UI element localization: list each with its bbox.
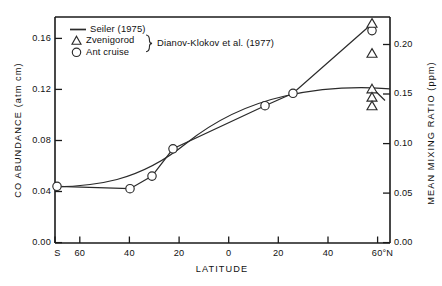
data-point-circle [126,185,134,193]
x-ticklabel-0: S [54,248,60,258]
left-axis-ticks [55,38,62,242]
legend-brace [146,35,152,52]
x-ticklabel-5: 20 [273,248,284,258]
data-point-circle [53,182,61,190]
x-axis-ticklabels: S 60 40 20 0 20 40 60°N [54,248,393,258]
x-axis-title: LATITUDE [196,264,249,274]
right-ticklabel-4: 0.20 [394,39,413,49]
x-ticklabel-2: 40 [124,248,135,258]
right-ticklabel-3: 0.15 [394,88,413,98]
legend-label-ant-cruise: Ant cruise [86,46,129,57]
legend-label-seiler: Seiler (1975) [90,23,146,34]
legend-label-zvenigorod: Zvenigorod [86,34,134,45]
x-axis-ticks [55,237,378,244]
data-point-circle [261,102,269,110]
x-ticklabel-6: 40 [323,248,334,258]
y2-axis-title: MEAN MIXING RATIO (ppm) [426,61,436,205]
data-point-triangle [367,19,377,28]
x-ticklabel-4: 0 [226,248,231,258]
right-ticklabel-0: 0.00 [394,237,413,247]
right-axis-ticklabels: 0.20 0.15 0.10 0.05 0.00 [394,39,413,247]
legend-circle-swatch [72,48,80,56]
right-ticklabel-2: 0.10 [394,138,413,148]
y-axis-title: CO ABUNDANCE (atm cm) [13,62,23,197]
x-ticklabel-3: 20 [174,248,185,258]
left-ticklabel-3: 0.04 [32,186,51,196]
data-point-triangle [367,49,377,58]
legend-triangle-swatch [72,36,81,44]
data-point-circle [148,172,156,180]
x-ticklabel-7: 60°N [372,248,393,258]
left-ticklabel-2: 0.08 [32,135,51,145]
right-axis-ticks [383,45,390,243]
left-ticklabel-4: 0.00 [32,237,51,247]
legend-group-note: Dianov-Klokov et al. (1977) [157,37,274,48]
data-point-circle [289,89,297,97]
data-point-triangle [367,93,377,102]
left-axis-ticklabels: 0.16 0.12 0.08 0.04 0.00 [32,33,51,247]
co-abundance-latitude-chart: 0.16 0.12 0.08 0.04 0.00 CO ABUNDANCE (a… [0,0,442,286]
data-point-circle [169,145,177,153]
data-point-triangle [367,101,377,110]
chart-legend: Seiler (1975) Zvenigorod Ant cruise Dian… [70,23,274,57]
x-ticklabel-1: 60 [74,248,85,258]
seiler-curve [55,88,390,187]
left-ticklabel-1: 0.12 [32,84,51,94]
left-ticklabel-0: 0.16 [32,33,51,43]
right-ticklabel-1: 0.05 [394,188,413,198]
